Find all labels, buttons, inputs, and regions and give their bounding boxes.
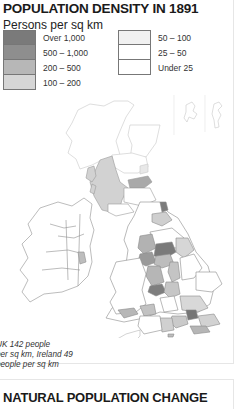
legend-right-column: 50 – 100 25 – 50 Under 25 (118, 30, 193, 75)
legend-swatch (3, 45, 36, 60)
british-isles-map (0, 88, 234, 338)
map-footnote: UK 142 people per sq km, Ireland 49 peop… (0, 340, 86, 370)
legend-swatch (3, 60, 36, 75)
footnote-line: UK 142 people (0, 340, 86, 350)
legend-item: 200 – 500 (3, 60, 88, 75)
legend-item: Over 1,000 (3, 30, 88, 45)
region-sussex (190, 326, 210, 334)
region-norfolk (196, 272, 222, 292)
legend-label: Over 1,000 (43, 33, 85, 43)
region-isle-of-wight (168, 334, 174, 337)
legend-item: 25 – 50 (118, 45, 193, 60)
legend-swatch (3, 30, 36, 45)
region-dumfries (108, 204, 134, 216)
legend-label: 200 – 500 (43, 63, 81, 73)
legend-swatch (118, 60, 151, 75)
population-density-map-panel: POPULATION DENSITY IN 1891 Persons per s… (0, 0, 234, 364)
region-somerset-wilts (138, 316, 162, 334)
legend-label: Under 25 (158, 63, 193, 73)
region-london (186, 310, 198, 320)
legend-left-column: Over 1,000 500 – 1,000 200 – 500 100 – 2… (3, 30, 88, 90)
legend-label: 500 – 1,000 (43, 48, 88, 58)
region-central-lothian (128, 176, 152, 188)
legend-swatch (118, 45, 151, 60)
section-title: NATURAL POPULATION CHANGE (3, 390, 207, 405)
legend-item: Under 25 (118, 60, 193, 75)
region-wales (110, 258, 146, 314)
map-title: POPULATION DENSITY IN 1891 (3, 1, 198, 16)
shetland-islands (184, 102, 197, 122)
footnote-line: people per sq km (0, 360, 86, 370)
legend-label: 25 – 50 (158, 48, 186, 58)
legend-item: 50 – 100 (118, 30, 193, 45)
footnote-line: per sq km, Ireland 49 (0, 350, 86, 360)
legend-label: 50 – 100 (158, 33, 191, 43)
orkney-islands (212, 102, 222, 128)
region-devon-cornwall (86, 330, 140, 338)
legend-item: 500 – 1,000 (3, 45, 88, 60)
legend-swatch (118, 30, 151, 45)
legend-label: 100 – 200 (43, 78, 81, 88)
ireland-outline (20, 198, 94, 302)
natural-population-change-panel: NATURAL POPULATION CHANGE (0, 379, 234, 409)
region-fife (140, 164, 148, 174)
